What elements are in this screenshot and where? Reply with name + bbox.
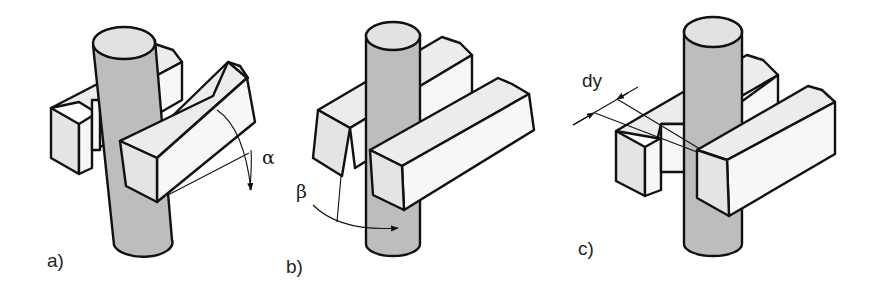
panel-label-b: b)	[286, 256, 303, 278]
panel-a	[51, 27, 255, 257]
panel-label-c: c)	[578, 238, 594, 260]
beta-symbol: β	[296, 180, 307, 202]
panel-c	[573, 17, 835, 256]
dy-symbol: dy	[582, 70, 602, 92]
diagram-canvas	[0, 0, 879, 295]
panel-b	[313, 22, 534, 256]
alpha-symbol: α	[262, 146, 275, 168]
panel-label-a: a)	[47, 250, 64, 272]
